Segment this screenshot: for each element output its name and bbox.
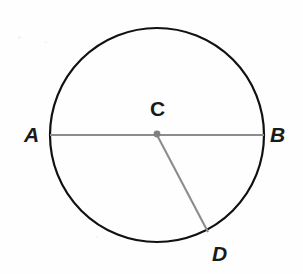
point-label-c: C <box>150 98 165 119</box>
radius-segment-cd <box>157 135 208 232</box>
point-label-d: D <box>212 243 227 264</box>
circle-diagram-canvas <box>0 0 303 274</box>
center-point-dot <box>154 131 161 138</box>
point-label-b: B <box>270 124 285 145</box>
point-label-a: A <box>24 124 39 145</box>
geometry-figure: A B C D <box>0 0 303 274</box>
